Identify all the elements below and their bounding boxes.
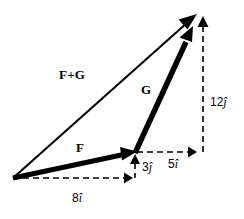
guide-3j-arrowhead [130,154,140,164]
vector-g-shaft [135,42,186,153]
label-vector-f: F [76,141,84,154]
label-component-5i: 5î [168,158,178,170]
label-component-8i-value: 8 [72,191,79,205]
label-resultant-f-plus-g: F+G [59,68,85,81]
vector-f-shaft [13,154,126,178]
vector-diagram-canvas [0,0,244,219]
label-component-12j-unit: ĵ [223,95,226,109]
vector-f-plus-g [13,14,197,178]
label-component-12j: 12ĵ [210,96,227,108]
label-component-5i-unit: î [175,157,178,171]
label-component-12j-value: 12 [210,95,223,109]
guide-8i-arrowhead [124,173,133,184]
label-component-3j: 3ĵ [142,161,152,173]
guide-12j [198,16,209,152]
label-component-3j-unit: ĵ [149,160,152,174]
guide-5i [137,147,197,158]
label-component-8i: 8î [72,192,82,204]
guide-12j-arrowhead [198,16,209,27]
label-component-3j-value: 3 [142,160,149,174]
label-component-5i-value: 5 [168,157,175,171]
guide-5i-arrowhead [188,147,197,158]
guide-3j [130,154,140,178]
label-vector-g: G [141,83,151,96]
vector-diagram-figure: F+G G F 3ĵ 5î 12ĵ 8î [0,0,244,219]
label-component-8i-unit: î [79,191,82,205]
